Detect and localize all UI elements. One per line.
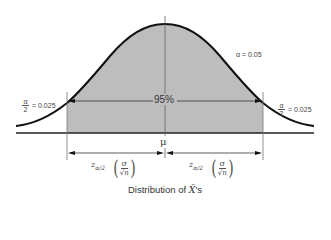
- right-tail-frac-num: α: [279, 102, 283, 109]
- right-margin-arrowhead-left-icon: [166, 151, 173, 155]
- right-margin-arrowhead-right-icon: [255, 151, 262, 155]
- right-paren-close: ): [228, 158, 233, 178]
- right-tail-frac-den: 2: [280, 110, 284, 117]
- left-tail-frac-num: α: [23, 98, 27, 105]
- caption-suffix: 's: [196, 184, 203, 195]
- right-se-numerator: σ: [219, 159, 226, 169]
- caption-prefix: Distribution of: [128, 184, 189, 195]
- right-z-critical: zα/2: [189, 160, 203, 171]
- left-tail-fraction: α 2: [22, 98, 29, 113]
- left-tail-frac-den: 2: [24, 106, 28, 113]
- left-standard-error: ( σ √n ): [112, 158, 137, 178]
- right-se-denominator: √n: [218, 169, 227, 178]
- left-margin-arrowhead-left-icon: [68, 151, 75, 155]
- right-standard-error: ( σ √n ): [210, 158, 235, 178]
- right-tail-value: = 0.025: [288, 106, 312, 113]
- left-paren-open: (: [113, 158, 118, 178]
- left-z-critical: zα/2: [91, 160, 105, 171]
- mean-label: μ: [160, 136, 167, 147]
- alpha-label: α = 0.05: [236, 51, 262, 58]
- right-paren-open: (: [211, 158, 216, 178]
- left-se-numerator: σ: [121, 159, 128, 169]
- caption-symbol: X̄: [189, 184, 196, 195]
- diagram-caption: Distribution of X̄'s: [128, 184, 202, 195]
- left-z-subscript: α/2: [95, 164, 105, 171]
- right-tail-fraction: α 2: [278, 102, 285, 117]
- left-paren-close: ): [130, 158, 135, 178]
- confidence-label: 95%: [153, 94, 175, 105]
- left-se-denominator: √n: [120, 169, 129, 178]
- left-margin-arrowhead-right-icon: [157, 151, 164, 155]
- left-tail-value: = 0.025: [32, 102, 56, 109]
- right-z-subscript: α/2: [193, 164, 203, 171]
